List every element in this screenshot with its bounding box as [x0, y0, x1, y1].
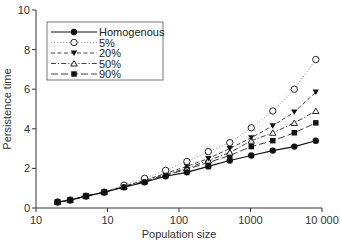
x-tick-label: 10 000: [305, 214, 339, 226]
legend: Homogenous5%20%50%90%: [47, 22, 165, 80]
data-point: [270, 108, 276, 114]
y-axis-title: Persistence time: [1, 68, 13, 149]
data-point: [83, 193, 89, 199]
data-point: [291, 86, 297, 92]
legend-marker: [71, 39, 77, 45]
data-point: [270, 123, 276, 128]
data-point: [270, 138, 275, 143]
data-point: [248, 152, 254, 158]
data-point: [313, 56, 319, 62]
data-point: [162, 167, 168, 173]
y-tick-label: 8: [24, 44, 30, 56]
data-point: [205, 148, 211, 154]
data-point: [292, 130, 297, 135]
x-axis-title: Population size: [142, 228, 217, 240]
x-tick-label: 10: [30, 214, 42, 226]
x-tick-label: 100: [170, 214, 188, 226]
data-point: [141, 179, 147, 185]
data-point: [205, 163, 211, 169]
data-point: [270, 130, 276, 135]
data-point: [313, 120, 318, 125]
data-point: [291, 120, 297, 125]
x-tick-label: 1000: [238, 214, 262, 226]
data-point: [121, 184, 127, 190]
data-point: [184, 158, 190, 164]
data-point: [313, 108, 319, 113]
x-tick-label: 10: [101, 214, 113, 226]
data-point: [54, 199, 60, 205]
y-tick-label: 10: [18, 4, 30, 16]
legend-marker: [71, 71, 76, 76]
data-point: [249, 144, 254, 149]
legend-label: 90%: [99, 68, 121, 80]
data-point: [227, 146, 233, 151]
series-20pct: [54, 90, 319, 205]
series-line: [58, 92, 316, 202]
legend-marker: [71, 29, 77, 35]
y-tick-label: 4: [24, 123, 30, 135]
data-point: [227, 157, 233, 163]
data-point: [227, 139, 233, 145]
series-50pct: [54, 108, 319, 205]
data-point: [184, 169, 190, 175]
y-tick-label: 0: [24, 202, 30, 214]
data-point: [162, 173, 168, 179]
data-point: [101, 189, 107, 195]
data-point: [67, 197, 73, 203]
y-tick-label: 6: [24, 83, 30, 95]
y-tick-label: 2: [24, 162, 30, 174]
data-point: [248, 125, 254, 131]
persistence-chart: 02468101010100100010 000 Homogenous5%20%…: [0, 0, 340, 244]
data-point: [313, 137, 319, 143]
series-homogenous: [54, 137, 319, 205]
series-line: [58, 111, 316, 202]
data-point: [291, 143, 297, 149]
data-point: [291, 109, 297, 114]
data-point: [270, 147, 276, 153]
